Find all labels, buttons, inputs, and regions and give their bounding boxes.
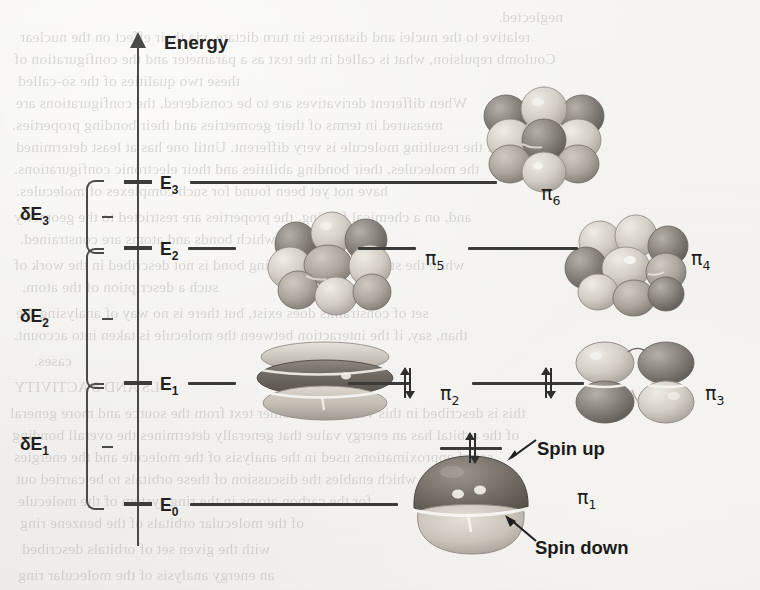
gap-bracket-label-dE1: δE1 [20, 434, 49, 458]
gap-bracket-label-dE3: δE3 [20, 204, 49, 228]
showthrough-line-7: the molecules, their bonding abilities a… [14, 160, 479, 178]
orbital-label-pi1: π1 [577, 486, 596, 512]
showthrough-line-9: and, on a chemical footing, the properti… [14, 208, 471, 226]
orbital-label-pi3: π3 [705, 382, 724, 408]
level-line-E3 [190, 181, 497, 184]
orbital-render-pi1 [406, 450, 536, 562]
level-line-E1-left [188, 382, 236, 385]
gap-bracket-nub [102, 318, 113, 320]
orbital-label-pi4: π4 [691, 247, 710, 273]
showthrough-line-24: an energy analysis of the molecular ring [18, 566, 275, 584]
gap-bracket-dE1 [86, 383, 104, 510]
showthrough-line-12: such a description of the atom. [22, 278, 218, 296]
orbital-label-pi6: π6 [541, 182, 560, 208]
energy-tick-E2 [124, 246, 152, 250]
orbital-render-pi5 [262, 208, 402, 316]
showthrough-line-10: in which bonds and atoms are constrained… [20, 230, 292, 248]
gap-bracket-nub [102, 216, 113, 218]
spin-down-head [546, 391, 556, 399]
showthrough-line-6: of the resulting molecule is very differ… [16, 138, 500, 156]
spin-down-label: Spin down [535, 537, 629, 559]
showthrough-line-4: When different derivatives are to be con… [16, 94, 467, 112]
orbital-label-pi2: π2 [440, 382, 459, 408]
showthrough-line-5: measured in terms of their geometries an… [12, 116, 443, 134]
showthrough-line-0: neglected. [498, 8, 563, 26]
showthrough-line-20: which enables the discussion of these or… [16, 470, 416, 488]
electron-pair-pi3 [537, 368, 559, 398]
energy-tick-label-E1: E1 [160, 374, 178, 398]
showthrough-line-1: relative to the nuclei and distances in … [20, 28, 530, 46]
showthrough-line-8: have not yet been found for such complex… [16, 182, 388, 200]
gap-bracket-dE2 [86, 248, 104, 389]
spin-down-head [405, 391, 415, 399]
showthrough-line-21: for the carbon atoms in the ring system … [18, 492, 372, 510]
orbital-render-pi6 [470, 82, 620, 194]
showthrough-line-15: cases. [34, 352, 72, 370]
electron-pair-pi1 [461, 433, 483, 463]
energy-tick-E1 [124, 381, 152, 385]
electron-pair-pi2 [396, 368, 418, 398]
orbital-render-pi4 [560, 212, 696, 318]
level-line-E2-right [468, 247, 578, 250]
level-line-E0-left [190, 503, 386, 506]
level-line-E2-left [188, 247, 236, 250]
showthrough-line-23: with the given set of orbitals described [22, 540, 270, 558]
gap-bracket-nub [102, 446, 113, 448]
energy-tick-E0 [124, 502, 152, 506]
energy-tick-label-E2: E2 [160, 239, 178, 263]
showthrough-line-3: these two qualities of the so-called [18, 72, 240, 90]
energy-tick-E3 [124, 180, 152, 184]
energy-level-diagram: neglected.relative to the nuclei and dis… [0, 0, 760, 590]
gap-bracket-label-dE2: δE2 [20, 306, 49, 330]
level-line-E2-mid [358, 247, 416, 250]
energy-tick-label-E3: E3 [160, 173, 178, 197]
spin-up-arrow-icon [505, 437, 539, 463]
orbital-label-pi5: π5 [425, 247, 444, 273]
level-line-E1-right [472, 382, 584, 385]
showthrough-line-14: than, say, if the interaction between th… [14, 326, 467, 344]
energy-tick-label-E0: E0 [160, 495, 178, 519]
energy-axis-line [137, 44, 139, 546]
gap-bracket-dE3 [86, 180, 104, 254]
level-line-E0-right [378, 503, 398, 506]
energy-axis-label: Energy [164, 32, 228, 54]
orbital-render-pi3 [572, 340, 698, 428]
showthrough-line-2: Coulomb repulsion, what is called in the… [14, 50, 556, 68]
spin-up-label: Spin up [537, 438, 605, 460]
spin-down-arrow-icon [500, 512, 540, 544]
spin-down-head [470, 456, 480, 464]
